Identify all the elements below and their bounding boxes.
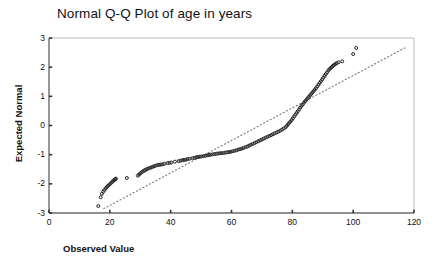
x-tick-label: 20 bbox=[95, 217, 125, 227]
data-points bbox=[97, 46, 358, 207]
y-tick-label: 3 bbox=[23, 33, 45, 43]
y-tick-label: 2 bbox=[23, 62, 45, 72]
y-tick-label: -2 bbox=[23, 178, 45, 188]
x-tick-label: 0 bbox=[34, 217, 64, 227]
qq-plot-figure: Normal Q-Q Plot of age in years Expected… bbox=[0, 0, 444, 271]
reference-line bbox=[104, 48, 405, 209]
axis-ticks bbox=[49, 38, 414, 213]
plot-frame bbox=[49, 38, 414, 213]
y-tick-label: 1 bbox=[23, 91, 45, 101]
y-tick-label: -3 bbox=[23, 208, 45, 218]
x-tick-label: 80 bbox=[277, 217, 307, 227]
y-tick-label: -1 bbox=[23, 149, 45, 159]
x-tick-label: 100 bbox=[338, 217, 368, 227]
x-tick-label: 60 bbox=[217, 217, 247, 227]
x-tick-label: 40 bbox=[156, 217, 186, 227]
y-tick-label: 0 bbox=[23, 120, 45, 130]
plot-canvas bbox=[0, 0, 444, 271]
x-tick-label: 120 bbox=[399, 217, 429, 227]
